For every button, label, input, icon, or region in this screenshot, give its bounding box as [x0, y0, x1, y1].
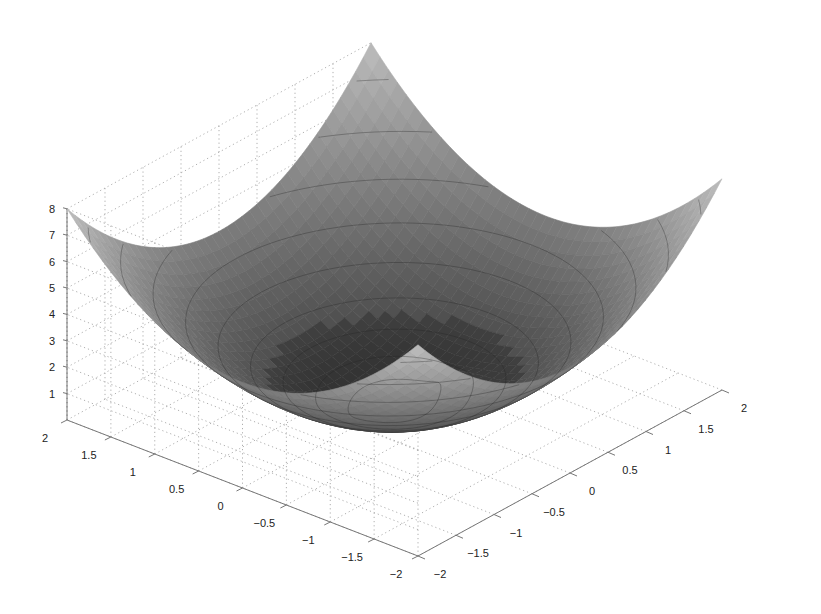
y-tick-label: 2	[42, 432, 48, 444]
surface	[67, 43, 722, 432]
z-tick-label: 4	[49, 308, 55, 320]
y-tick-label: 0.5	[169, 483, 184, 495]
x-tick-label: 0.5	[622, 464, 637, 476]
x-tick-label: −1.5	[467, 547, 489, 559]
surface-patch	[67, 209, 83, 229]
y-tick-label: −1	[302, 534, 315, 546]
y-tick-label: −2	[390, 568, 403, 580]
y-tick-label: 1.5	[81, 449, 96, 461]
x-tick-label: −2	[434, 568, 447, 580]
x-tick-label: 0	[589, 485, 595, 497]
y-tick-label: 0	[217, 500, 223, 512]
y-tick-label: −1.5	[341, 551, 363, 563]
z-tick-label: 2	[49, 361, 55, 373]
z-tick-label: 8	[49, 203, 55, 215]
z-tick-label: 5	[49, 282, 55, 294]
z-tick-label: 1	[49, 388, 55, 400]
z-tick-label: 3	[49, 335, 55, 347]
x-tick-label: 1.5	[698, 423, 713, 435]
surface-plot: 1234567821.510.50−0.5−1−1.5−2−2−1.5−1−0.…	[0, 0, 821, 614]
y-tick-label: −0.5	[254, 517, 276, 529]
z-tick-label: 6	[49, 256, 55, 268]
z-tick-label: 7	[49, 229, 55, 241]
y-tick-label: 1	[130, 466, 136, 478]
x-tick-label: 1	[665, 444, 671, 456]
x-tick-label: 2	[741, 402, 747, 414]
x-tick-label: −0.5	[543, 506, 565, 518]
x-tick-label: −1	[510, 527, 523, 539]
